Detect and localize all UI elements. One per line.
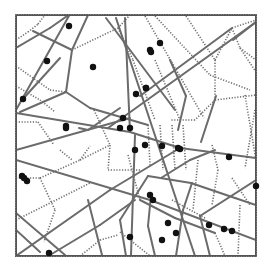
site-point (206, 222, 212, 228)
site-point (117, 125, 123, 131)
site-point (177, 146, 183, 152)
site-point (127, 125, 133, 131)
site-point (253, 183, 259, 189)
site-point (221, 226, 227, 232)
site-point (132, 147, 138, 153)
site-point (159, 143, 165, 149)
site-point (46, 250, 52, 256)
site-point (133, 91, 139, 97)
site-point (150, 197, 156, 203)
site-point (90, 64, 96, 70)
site-point (63, 125, 69, 131)
site-point (66, 23, 72, 29)
site-point (21, 175, 27, 181)
site-point (142, 142, 148, 148)
site-point (127, 234, 133, 240)
site-point (229, 228, 235, 234)
voronoi-diagram (0, 0, 269, 268)
site-point (120, 115, 126, 121)
site-point (20, 96, 26, 102)
site-point (143, 85, 149, 91)
site-point (148, 49, 154, 55)
site-point (159, 237, 165, 243)
site-point (157, 40, 163, 46)
site-point (226, 154, 232, 160)
site-point (165, 220, 171, 226)
site-point (173, 230, 179, 236)
site-point (44, 58, 50, 64)
